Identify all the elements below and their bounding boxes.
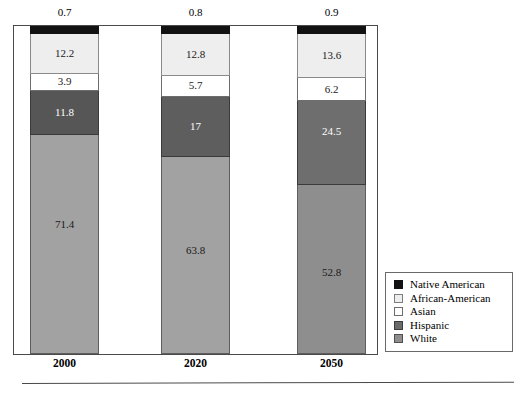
segment-value-label: 71.4 — [55, 219, 74, 230]
bar-top-value-2020: 0.8 — [161, 6, 230, 18]
segment-value-label: 52.8 — [322, 267, 341, 278]
medium-gray-square-icon — [394, 334, 403, 343]
bar-2000: 12.2 3.9 11.8 71.4 — [30, 26, 99, 354]
x-axis-label-2000: 2000 — [30, 357, 99, 369]
bar-top-value-2050: 0.9 — [297, 6, 366, 18]
page-divider-rule — [22, 382, 514, 384]
segment-hispanic-2000: 11.8 — [30, 91, 99, 135]
stacked-bar-chart-figure: 0.7 0.8 0.9 12.2 3.9 11.8 71.4 12.8 — [0, 0, 519, 396]
x-axis-label-2020: 2020 — [161, 357, 230, 369]
segment-white-2000: 71.4 — [30, 135, 99, 354]
segment-value-label: 24.5 — [322, 126, 341, 137]
legend-label: Native American — [410, 279, 485, 290]
black-square-icon — [394, 280, 403, 289]
segment-hispanic-2020: 17 — [161, 97, 230, 157]
legend-item-hispanic: Hispanic — [394, 319, 506, 333]
legend-label: White — [410, 333, 437, 344]
light-gray-square-icon — [394, 294, 403, 303]
segment-value-label: 3.9 — [58, 76, 72, 87]
segment-value-label: 12.8 — [186, 49, 205, 60]
plot-area: 12.2 3.9 11.8 71.4 12.8 5.7 17 — [13, 25, 378, 355]
legend-item-native-american: Native American — [394, 278, 506, 292]
chart-legend: Native American African-American Asian H… — [385, 272, 513, 352]
bar-2050: 13.6 6.2 24.5 52.8 — [297, 26, 366, 354]
legend-label: Asian — [410, 306, 436, 317]
segment-white-2020: 63.8 — [161, 157, 230, 353]
legend-item-white: White — [394, 332, 506, 346]
segment-value-label: 6.2 — [325, 84, 339, 95]
segment-asian-2000: 3.9 — [30, 74, 99, 91]
legend-item-asian: Asian — [394, 305, 506, 319]
legend-item-african-american: African-American — [394, 292, 506, 306]
x-axis-label-2050: 2050 — [297, 357, 366, 369]
segment-native-american-2020 — [161, 26, 230, 34]
segment-asian-2020: 5.7 — [161, 76, 230, 98]
segment-hispanic-2050: 24.5 — [297, 101, 366, 185]
segment-african-american-2000: 12.2 — [30, 34, 99, 74]
segment-native-american-2050 — [297, 26, 366, 34]
segment-value-label: 11.8 — [55, 107, 74, 118]
segment-african-american-2050: 13.6 — [297, 34, 366, 79]
dark-gray-square-icon — [394, 321, 403, 330]
bar-2020: 12.8 5.7 17 63.8 — [161, 26, 230, 354]
legend-label: African-American — [410, 293, 491, 304]
segment-asian-2050: 6.2 — [297, 78, 366, 101]
segment-value-label: 13.6 — [322, 50, 341, 61]
bar-top-value-2000: 0.7 — [30, 6, 99, 18]
segment-white-2050: 52.8 — [297, 185, 366, 354]
segment-value-label: 63.8 — [186, 245, 205, 256]
segment-value-label: 5.7 — [189, 80, 203, 91]
segment-african-american-2020: 12.8 — [161, 34, 230, 76]
segment-native-american-2000 — [30, 26, 99, 34]
segment-value-label: 12.2 — [55, 48, 74, 59]
legend-label: Hispanic — [410, 320, 449, 331]
segment-value-label: 17 — [190, 121, 201, 132]
white-square-icon — [394, 307, 403, 316]
